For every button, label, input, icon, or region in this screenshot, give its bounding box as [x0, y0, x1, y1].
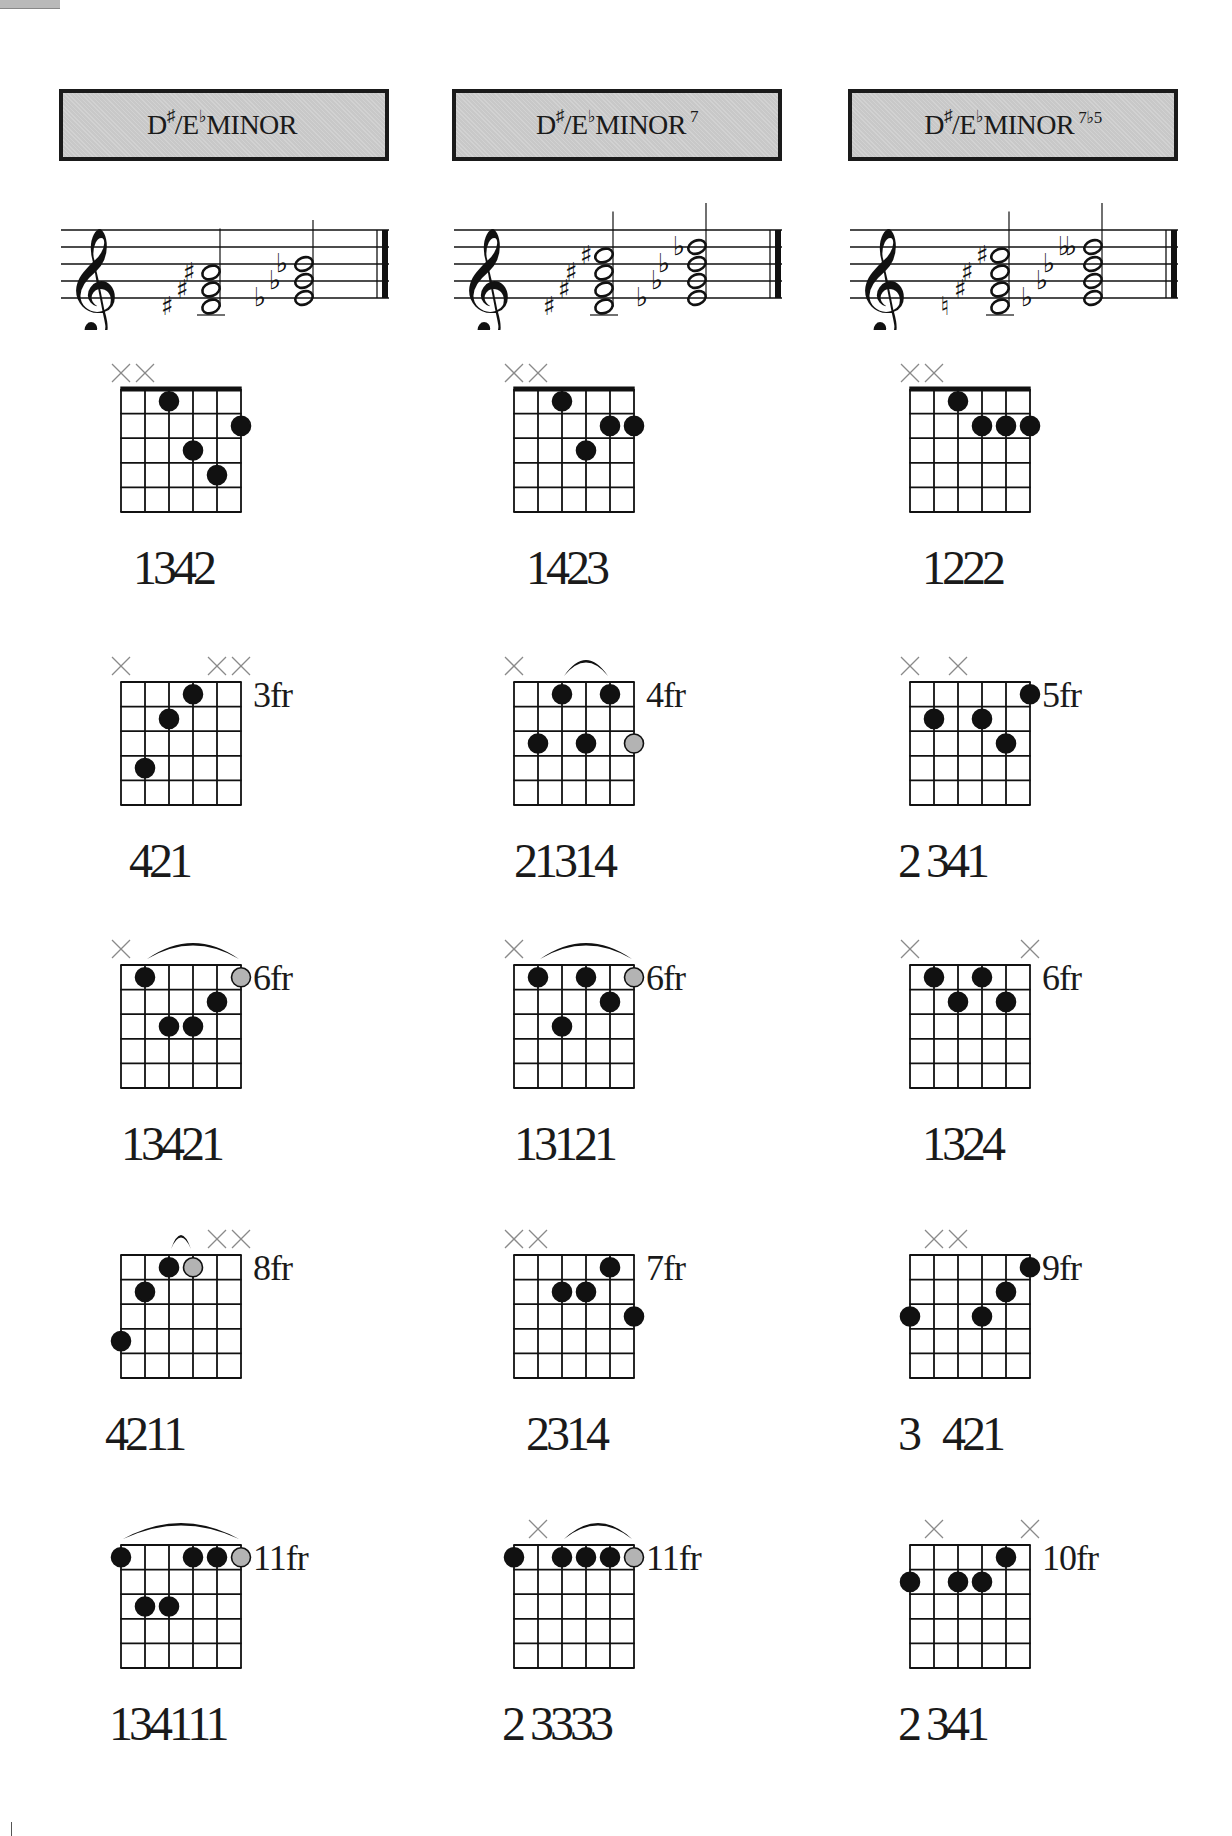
fingering-label: 2 341	[898, 833, 986, 888]
treble-clef-icon: 𝄞	[65, 227, 119, 330]
finger-dot-icon	[505, 1548, 524, 1567]
finger-dot-icon	[577, 1548, 596, 1567]
muted-string-x-icon	[112, 657, 130, 675]
svg-text:♭: ♭	[658, 248, 670, 278]
fret-position-label: 6fr	[1042, 957, 1081, 999]
fret-position-label: 6fr	[646, 957, 685, 999]
svg-text:♯: ♯	[183, 257, 196, 287]
finger-dot-icon	[160, 1597, 179, 1616]
fret-position-label: 6fr	[253, 957, 292, 999]
svg-text:♯: ♯	[565, 257, 578, 287]
muted-string-x-icon	[208, 1230, 226, 1248]
fret-position-label: 11fr	[646, 1537, 701, 1579]
muted-string-x-icon	[112, 364, 130, 382]
finger-dot-icon	[601, 685, 620, 704]
muted-string-x-icon	[949, 1230, 967, 1248]
svg-text:♭: ♭	[636, 282, 648, 312]
fingering-label: 421	[129, 833, 189, 888]
treble-clef-icon: 𝄞	[854, 227, 908, 330]
finger-dot-icon	[136, 968, 155, 987]
finger-dot-icon	[901, 1572, 920, 1591]
finger-dot-icon	[1021, 1258, 1040, 1277]
muted-string-x-icon	[112, 940, 130, 958]
fret-position-label: 4fr	[646, 674, 685, 716]
finger-dot-icon	[997, 734, 1016, 753]
muted-string-x-icon	[901, 364, 919, 382]
finger-dot-icon	[997, 992, 1016, 1011]
finger-dot-icon	[577, 441, 596, 460]
finger-dot-icon	[577, 1282, 596, 1301]
muted-string-x-icon	[232, 1230, 250, 1248]
svg-text:♭: ♭	[673, 231, 685, 261]
muted-string-x-icon	[901, 940, 919, 958]
svg-text:♯: ♯	[543, 291, 556, 321]
finger-dot-icon	[901, 1307, 920, 1326]
fingering-label: 1222	[922, 540, 1002, 595]
finger-dot-icon	[160, 709, 179, 728]
fret-position-label: 3fr	[253, 674, 292, 716]
muted-string-x-icon	[925, 364, 943, 382]
fret-position-label: 11fr	[253, 1537, 308, 1579]
finger-dot-icon	[529, 968, 548, 987]
page-corner-mark	[0, 0, 60, 9]
finger-dot-icon	[973, 416, 992, 435]
finger-dot-icon	[601, 1548, 620, 1567]
finger-dot-icon	[925, 968, 944, 987]
svg-text:♭: ♭	[276, 248, 288, 278]
muted-string-x-icon	[949, 657, 967, 675]
fret-position-label: 10fr	[1042, 1537, 1098, 1579]
barre-arc-icon	[171, 1235, 191, 1249]
finger-dot-icon	[925, 709, 944, 728]
svg-text:♭: ♭	[254, 282, 266, 312]
chord-title: D♯/E♭MINOR7	[536, 109, 698, 141]
chord-title-box: D♯/E♭MINOR7	[452, 89, 782, 161]
barre-arc-icon	[564, 660, 608, 676]
fingering-label: 2 3333	[502, 1696, 610, 1751]
svg-text:♭: ♭	[1021, 282, 1033, 312]
treble-clef-icon: 𝄞	[458, 227, 512, 330]
finger-dot-icon	[112, 1548, 131, 1567]
finger-dot-icon	[553, 685, 572, 704]
finger-dot-icon	[184, 685, 203, 704]
finger-dot-icon	[577, 968, 596, 987]
muted-string-x-icon	[208, 657, 226, 675]
muted-string-x-icon	[901, 657, 919, 675]
fingering-label: 4211	[105, 1406, 183, 1461]
muted-string-x-icon	[232, 657, 250, 675]
root-dot-open-icon	[625, 1548, 644, 1567]
muted-string-x-icon	[529, 364, 547, 382]
svg-text:♯: ♯	[961, 257, 974, 287]
muted-string-x-icon	[505, 657, 523, 675]
finger-dot-icon	[553, 1548, 572, 1567]
chord-title: D♯/E♭MINOR7♭5	[924, 109, 1102, 141]
finger-dot-icon	[232, 416, 251, 435]
fret-position-label: 8fr	[253, 1247, 292, 1289]
barre-arc-icon	[564, 1523, 632, 1539]
music-staff: 𝄞♯♯♯♭♭♭	[59, 190, 399, 330]
finger-dot-icon	[184, 1017, 203, 1036]
fingering-label: 3 421	[898, 1406, 1002, 1461]
finger-dot-icon	[949, 1572, 968, 1591]
finger-dot-icon	[1021, 416, 1040, 435]
finger-dot-icon	[136, 1597, 155, 1616]
muted-string-x-icon	[136, 364, 154, 382]
finger-dot-icon	[973, 1307, 992, 1326]
finger-dot-icon	[625, 1307, 644, 1326]
fret-position-label: 9fr	[1042, 1247, 1081, 1289]
finger-dot-icon	[136, 759, 155, 778]
fingering-label: 1342	[133, 540, 213, 595]
barre-arc-icon	[123, 1523, 239, 1539]
svg-text:♭: ♭	[1043, 248, 1055, 278]
chord-title: D♯/E♭MINOR	[147, 109, 301, 141]
finger-dot-icon	[949, 992, 968, 1011]
root-dot-open-icon	[625, 968, 644, 987]
fingering-label: 13121	[514, 1116, 614, 1171]
muted-string-x-icon	[925, 1520, 943, 1538]
svg-text:♯: ♯	[161, 291, 174, 321]
root-dot-open-icon	[232, 968, 251, 987]
muted-string-x-icon	[529, 1520, 547, 1538]
finger-dot-icon	[160, 392, 179, 411]
fret-position-label: 7fr	[646, 1247, 685, 1289]
finger-dot-icon	[997, 1282, 1016, 1301]
svg-text:♮: ♮	[940, 291, 949, 321]
